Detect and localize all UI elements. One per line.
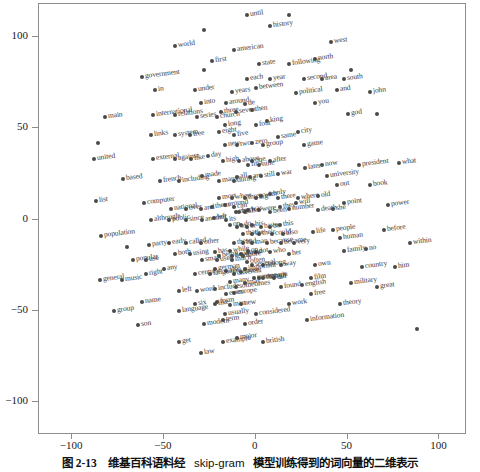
scatter-point	[169, 207, 173, 211]
scatter-point-label: day	[210, 149, 221, 158]
scatter-point	[94, 199, 98, 203]
scatter-point	[316, 208, 320, 212]
scatter-point	[232, 179, 236, 183]
scatter-point-label: computer	[146, 195, 174, 206]
scatter-point	[254, 86, 258, 90]
scatter-point	[177, 289, 181, 293]
scatter-point	[325, 174, 329, 178]
scatter-point-label: death	[321, 203, 338, 213]
scatter-point-label: main	[108, 110, 123, 120]
scatter-point-label: first	[214, 54, 226, 63]
scatter-point-label: group	[117, 304, 135, 314]
scatter-point-label: law	[203, 347, 214, 356]
scatter-point	[188, 133, 192, 137]
scatter-point	[320, 77, 324, 81]
scatter-point	[223, 143, 227, 147]
y-axis-tick-label: −50	[11, 304, 28, 315]
scatter-point-label: until	[249, 8, 263, 18]
scatter-point	[210, 205, 214, 209]
scatter-point-label: way	[284, 259, 297, 268]
figure-caption: 图 2-13 维基百科语料经 skip-gram 模型训练得到的词向量的二维表示	[0, 456, 480, 470]
scatter-point-label: left	[181, 285, 192, 294]
scatter-point	[103, 115, 107, 119]
scatter-point-label: right	[148, 268, 163, 278]
scatter-point	[224, 101, 228, 105]
scatter-point	[151, 113, 155, 117]
scatter-point-label: still	[264, 169, 276, 178]
scatter-point	[276, 196, 280, 200]
scatter-point-label: population	[104, 227, 136, 239]
scatter-point-label: get	[181, 336, 191, 345]
scatter-point-label: what	[402, 156, 417, 166]
scatter-point	[259, 174, 263, 178]
scatter-point	[261, 143, 265, 147]
scatter-point	[136, 323, 140, 327]
scatter-point-label: found	[284, 280, 302, 290]
scatter-point-label: language	[181, 303, 208, 314]
scatter-point-label: point	[346, 196, 362, 206]
scatter-point	[125, 245, 129, 249]
scatter-point	[329, 40, 333, 44]
scatter-point	[243, 322, 247, 326]
scatter-point-label: like	[218, 297, 230, 306]
scatter-point	[221, 340, 225, 344]
scatter-point	[151, 157, 155, 161]
scatter-point-label: son	[141, 319, 152, 328]
scatter-point-label: book	[372, 178, 387, 188]
scatter-point-label: west	[334, 36, 348, 46]
scatter-point-label: south	[346, 72, 363, 82]
scatter-point-label: war	[280, 168, 292, 177]
scatter-point-label: any	[166, 263, 177, 272]
scatter-point-label: other	[203, 236, 219, 246]
scatter-point	[228, 223, 232, 227]
scatter-point	[305, 318, 309, 322]
scatter-point-label: name	[144, 295, 161, 305]
scatter-point-label: information	[310, 311, 345, 323]
scatter-point-label: military	[354, 276, 378, 287]
scatter-point	[92, 157, 96, 161]
scatter-point	[382, 228, 386, 232]
scatter-point	[335, 88, 339, 92]
x-axis-tick-label: −50	[143, 440, 183, 451]
scatter-point	[217, 254, 221, 258]
scatter-point-label: god	[350, 107, 362, 116]
scatter-point	[296, 130, 300, 134]
scatter-point	[149, 133, 153, 137]
scatter-point	[121, 177, 125, 181]
scatter-point	[239, 302, 243, 306]
y-axis-tick	[32, 310, 38, 311]
scatter-point	[213, 287, 217, 291]
scatter-point-label: him	[398, 261, 410, 270]
scatter-point-label: music	[124, 273, 142, 283]
scatter-point	[173, 133, 177, 137]
scatter-point	[313, 57, 317, 61]
scatter-point	[241, 254, 245, 258]
scatter-point-label: country	[365, 259, 388, 270]
scatter-point	[173, 113, 177, 117]
scatter-point-label: into	[203, 96, 215, 105]
scatter-point	[217, 130, 221, 134]
scatter-point	[232, 48, 236, 52]
scatter-point-label: you	[317, 96, 329, 105]
scatter-point	[142, 201, 146, 205]
scatter-point-label: and	[339, 84, 350, 93]
scatter-point	[250, 108, 254, 112]
scatter-point-label: within	[413, 236, 432, 246]
scatter-point	[342, 77, 346, 81]
scatter-point	[221, 159, 225, 163]
scatter-point	[167, 241, 171, 245]
scatter-point	[349, 281, 353, 285]
scatter-point	[331, 228, 335, 232]
scatter-point-label: life	[315, 226, 326, 235]
scatter-point	[375, 112, 379, 116]
scatter-point-label: political	[299, 86, 323, 97]
y-axis-tick	[32, 36, 38, 37]
scatter-point-label: links	[154, 129, 169, 139]
scatter-point	[199, 351, 203, 355]
caption-figure-number: 图 2-13	[62, 457, 97, 469]
scatter-point-label: president	[361, 156, 388, 167]
scatter-point	[120, 278, 124, 282]
scatter-point	[303, 166, 307, 170]
scatter-point-label: party	[152, 238, 168, 248]
scatter-point	[184, 207, 188, 211]
